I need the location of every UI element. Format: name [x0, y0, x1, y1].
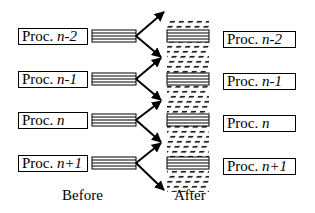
after-stripe-n+1: [167, 157, 209, 169]
proc-index: n+1: [262, 158, 287, 174]
after-proc-n-2: Proc. n-2: [223, 31, 296, 48]
after-caption: After: [174, 188, 206, 203]
after-stripe-n-1: [167, 73, 209, 85]
proc-index: n-1: [262, 73, 282, 89]
proc-prefix: Proc.: [22, 71, 57, 87]
proc-prefix: Proc.: [22, 112, 57, 128]
proc-index: n: [57, 112, 65, 128]
stripe-block-n-2: [92, 30, 136, 42]
after-data-column: [167, 20, 209, 192]
after-stripe-n-2: [167, 30, 209, 42]
after-proc-n+1: Proc. n+1: [223, 158, 296, 175]
proc-index: n-2: [262, 31, 282, 47]
proc-prefix: Proc.: [227, 31, 262, 47]
proc-index: n-1: [57, 71, 77, 87]
stripe-block-n-1: [92, 73, 136, 85]
proc-index: n+1: [57, 155, 82, 171]
proc-prefix: Proc.: [227, 158, 262, 174]
stripe-block-n+1: [92, 157, 136, 169]
before-caption: Before: [62, 188, 103, 203]
proc-prefix: Proc.: [22, 155, 57, 171]
before-proc-n: Proc. n: [18, 112, 88, 129]
stripe-block-n: [92, 114, 136, 126]
exchange-arrows: [136, 12, 164, 190]
proc-prefix: Proc.: [22, 28, 57, 44]
proc-index: n-2: [57, 28, 77, 44]
before-proc-n+1: Proc. n+1: [18, 155, 88, 172]
proc-prefix: Proc.: [227, 115, 262, 131]
before-data-blocks: [92, 30, 136, 169]
proc-index: n: [262, 115, 270, 131]
after-proc-n: Proc. n: [223, 115, 296, 132]
before-proc-n-2: Proc. n-2: [18, 28, 88, 45]
after-proc-n-1: Proc. n-1: [223, 73, 296, 90]
before-proc-n-1: Proc. n-1: [18, 71, 88, 88]
proc-prefix: Proc.: [227, 73, 262, 89]
after-stripe-n: [167, 114, 209, 126]
